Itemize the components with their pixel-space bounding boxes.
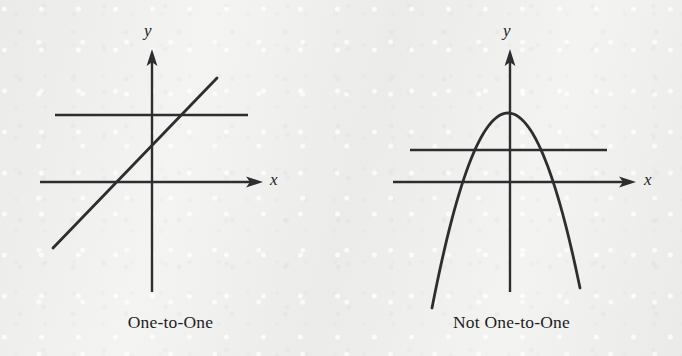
panel-one-to-one: y x One-to-One xyxy=(0,0,341,356)
figure-root: y x One-to-One y x Not One-to-One xyxy=(0,0,682,356)
caption-one-to-one: One-to-One xyxy=(0,314,341,332)
not-one-to-one-graph xyxy=(341,0,682,356)
y-axis-label: y xyxy=(144,22,152,39)
panel-not-one-to-one: y x Not One-to-One xyxy=(341,0,682,356)
parabola-curve xyxy=(432,113,580,308)
one-to-one-graph xyxy=(0,0,341,356)
caption-not-one-to-one: Not One-to-One xyxy=(341,314,682,332)
x-axis-label: x xyxy=(270,171,278,188)
increasing-line-curve xyxy=(53,78,217,248)
y-axis-label: y xyxy=(503,22,511,39)
x-axis-label: x xyxy=(644,171,652,188)
